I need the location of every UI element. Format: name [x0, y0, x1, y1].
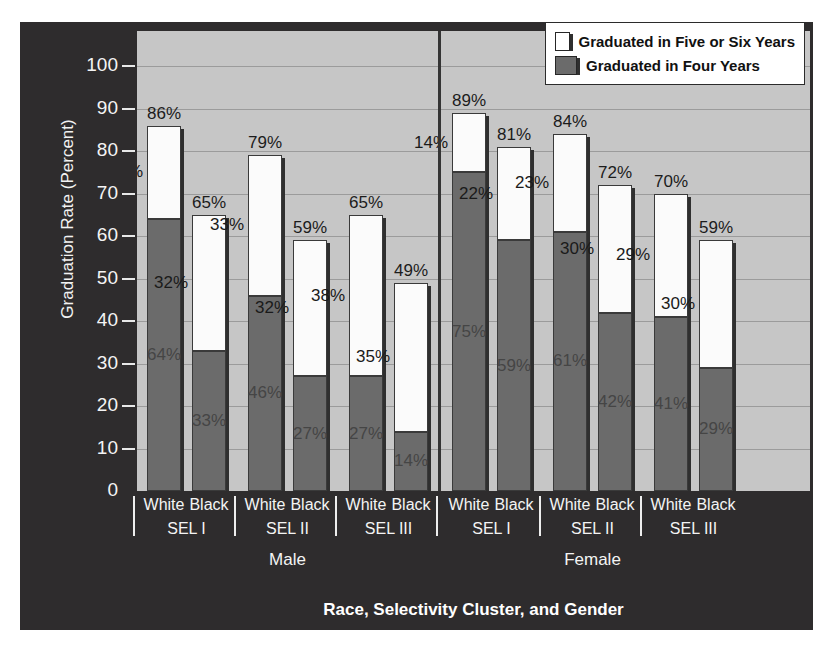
bar-segment-five-or-six-years	[248, 155, 282, 295]
bar-female-sel-iii-black[interactable]	[699, 240, 733, 491]
bar-shadow	[587, 137, 590, 491]
bar-segment-label-five-or-six-years: 22%	[137, 162, 146, 182]
bar-segment-label-five-or-six-years: 38%	[308, 286, 348, 306]
x-axis-race-label: Black	[382, 496, 440, 514]
x-axis-gender-label: Male	[208, 550, 368, 570]
bar-segment-label-four-years: 29%	[697, 419, 735, 439]
y-axis-tick-label: 90	[38, 98, 118, 118]
bar-total-label: 65%	[183, 193, 235, 213]
bar-total-label: 89%	[443, 91, 495, 111]
x-axis-cluster-label: SEL III	[329, 520, 449, 538]
bar-total-label: 79%	[239, 133, 291, 153]
bar-total-label: 86%	[138, 104, 190, 124]
legend: Graduated in Five or Six Years Graduated…	[545, 22, 805, 85]
bar-male-sel-ii-black[interactable]	[293, 240, 327, 491]
x-axis-group-separator	[539, 496, 541, 536]
bar-male-sel-i-white[interactable]	[147, 126, 181, 492]
legend-swatch-four-years	[555, 56, 577, 75]
y-axis-tick-label: 80	[38, 140, 118, 160]
chart-figure: Graduation Rate (Percent) 86%22%64%65%32…	[20, 22, 813, 630]
gender-divider	[438, 31, 441, 491]
bar-shadow	[733, 243, 736, 491]
bar-segment-label-four-years: 41%	[652, 394, 690, 414]
x-axis-race-label: Black	[586, 496, 644, 514]
y-axis-tick-mark	[122, 108, 135, 110]
y-axis-tick-mark	[122, 193, 135, 195]
bar-shadow	[531, 150, 534, 491]
x-axis-gender-label: Female	[513, 550, 673, 570]
bar-total-label: 65%	[340, 193, 392, 213]
x-axis-race-label: Black	[281, 496, 339, 514]
x-axis-group-separator	[436, 496, 438, 536]
y-axis-tick-label: 50	[38, 268, 118, 288]
bar-total-label: 81%	[488, 125, 540, 145]
x-axis-group-separator	[133, 496, 135, 536]
bar-segment-five-or-six-years	[293, 240, 327, 376]
bar-segment-label-five-or-six-years: 32%	[252, 298, 292, 318]
bar-segment-label-five-or-six-years: 22%	[456, 184, 496, 204]
bar-segment-label-four-years: 42%	[596, 392, 634, 412]
bar-segment-label-five-or-six-years: 35%	[353, 347, 393, 367]
y-axis-tick-label: 40	[38, 310, 118, 330]
bar-shadow	[282, 158, 285, 491]
y-axis-tick-label: 20	[38, 395, 118, 415]
bar-female-sel-i-black[interactable]	[497, 147, 531, 491]
bar-shadow	[632, 188, 635, 491]
x-axis-race-label: Black	[687, 496, 745, 514]
bar-segment-five-or-six-years	[699, 240, 733, 368]
y-axis-tick-label: 100	[38, 55, 118, 75]
bar-segment-label-four-years: 75%	[450, 322, 488, 342]
plot-area: 86%22%64%65%32%33%79%33%46%59%32%27%65%3…	[137, 31, 810, 491]
bar-segment-label-five-or-six-years: 32%	[151, 273, 191, 293]
bar-segment-label-five-or-six-years: 14%	[411, 133, 451, 153]
bar-total-label: 59%	[690, 218, 742, 238]
bar-shadow	[486, 116, 489, 491]
bar-segment-label-four-years: 46%	[246, 383, 284, 403]
bar-total-label: 84%	[544, 112, 596, 132]
bar-segment-label-five-or-six-years: 33%	[207, 215, 247, 235]
y-axis-tick-label: 60	[38, 225, 118, 245]
y-axis-tick-mark	[122, 150, 135, 152]
legend-item-four-years: Graduated in Four Years	[555, 54, 795, 76]
bar-segment-five-or-six-years	[147, 126, 181, 220]
x-axis-group-separator	[640, 496, 642, 536]
bar-segment-five-or-six-years	[394, 283, 428, 432]
bar-segment-five-or-six-years	[452, 113, 486, 173]
y-axis-tick-mark	[122, 448, 135, 450]
bar-segment-label-five-or-six-years: 23%	[512, 173, 552, 193]
y-axis-tick-mark	[122, 278, 135, 280]
y-axis-tick-mark	[122, 235, 135, 237]
bar-segment-label-four-years: 61%	[551, 351, 589, 371]
x-axis-title: Race, Selectivity Cluster, and Gender	[137, 600, 810, 620]
y-axis-tick-label: 10	[38, 438, 118, 458]
bar-female-sel-ii-black[interactable]	[598, 185, 632, 491]
bar-segment-label-four-years: 33%	[190, 411, 228, 431]
bar-segment-five-or-six-years	[497, 147, 531, 241]
bar-total-label: 49%	[385, 261, 437, 281]
bar-female-sel-ii-white[interactable]	[553, 134, 587, 491]
x-axis-race-label: Black	[180, 496, 238, 514]
bar-male-sel-i-black[interactable]	[192, 215, 226, 491]
bar-total-label: 70%	[645, 172, 697, 192]
bar-segment-label-four-years: 14%	[392, 451, 430, 471]
bar-segment-label-four-years: 59%	[495, 356, 533, 376]
y-axis-tick-mark	[122, 363, 135, 365]
bar-female-sel-iii-white[interactable]	[654, 194, 688, 492]
bar-shadow	[688, 197, 691, 492]
bar-female-sel-i-white[interactable]	[452, 113, 486, 491]
bar-segment-label-five-or-six-years: 29%	[613, 245, 653, 265]
legend-swatch-five-or-six-years	[555, 32, 570, 51]
y-axis-tick-mark	[122, 405, 135, 407]
x-axis-group-separator	[234, 496, 236, 536]
y-axis-tick-mark	[122, 65, 135, 67]
bar-male-sel-ii-white[interactable]	[248, 155, 282, 491]
x-axis: WhiteBlackWhiteBlackWhiteBlackWhiteBlack…	[137, 494, 810, 589]
bar-segment-label-four-years: 27%	[347, 424, 385, 444]
legend-label-five-or-six-years: Graduated in Five or Six Years	[579, 33, 795, 50]
x-axis-cluster-label: SEL III	[634, 520, 754, 538]
bar-shadow	[226, 218, 229, 491]
x-axis-race-label: Black	[485, 496, 543, 514]
bar-shadow	[327, 243, 330, 491]
bar-segment-label-five-or-six-years: 30%	[557, 239, 597, 259]
bar-segment-label-four-years: 27%	[291, 424, 329, 444]
